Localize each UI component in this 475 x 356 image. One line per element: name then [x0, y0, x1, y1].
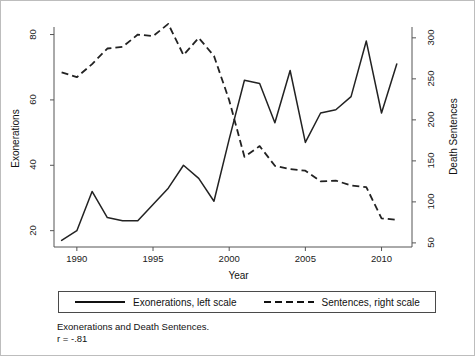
- y-axis-left-title: Exonerations: [10, 94, 21, 184]
- left-tick-label: 20: [27, 218, 38, 242]
- legend-item-exonerations: Exonerations, left scale: [74, 297, 236, 308]
- x-tick-label: 1990: [57, 253, 97, 264]
- left-tick-label: 80: [27, 22, 38, 46]
- x-tick-label: 2000: [209, 253, 249, 264]
- dashed-line-icon: [263, 297, 315, 307]
- series-line-exonerations: [62, 41, 397, 240]
- right-tick-label: 250: [425, 65, 436, 91]
- x-axis-title: Year: [1, 270, 475, 281]
- left-tick-label: 40: [27, 153, 38, 177]
- y-axis-right-title: Death Sentences: [448, 85, 459, 189]
- legend-label-exonerations: Exonerations, left scale: [133, 297, 236, 308]
- axis-lines: [54, 27, 412, 247]
- right-tick-label: 300: [425, 24, 436, 50]
- chart-legend: Exonerations, left scale Sentences, righ…: [58, 291, 436, 313]
- x-tick-label: 1995: [133, 253, 173, 264]
- series-line-sentences: [62, 24, 397, 220]
- figure-panel: Exonerations Death Sentences Year 204060…: [0, 0, 475, 356]
- right-tick-label: 150: [425, 147, 436, 173]
- x-tick-label: 2010: [362, 253, 402, 264]
- x-axis-ticks: [77, 247, 382, 251]
- left-axis-ticks: [50, 35, 54, 231]
- solid-line-icon: [74, 297, 126, 307]
- caption-line-2: r = -.81: [57, 333, 209, 345]
- right-tick-label: 200: [425, 106, 436, 132]
- x-tick-label: 2005: [285, 253, 325, 264]
- chart-plot-svg: [1, 1, 475, 291]
- left-tick-label: 60: [27, 87, 38, 111]
- legend-item-sentences: Sentences, right scale: [263, 297, 420, 308]
- caption-line-1: Exonerations and Death Sentences.: [57, 321, 209, 333]
- right-tick-label: 100: [425, 188, 436, 214]
- chart-area: Exonerations Death Sentences Year 204060…: [1, 1, 475, 291]
- figure-caption: Exonerations and Death Sentences. r = -.…: [57, 321, 209, 344]
- right-tick-label: 50: [425, 229, 436, 255]
- legend-label-sentences: Sentences, right scale: [322, 297, 420, 308]
- right-axis-ticks: [412, 38, 416, 243]
